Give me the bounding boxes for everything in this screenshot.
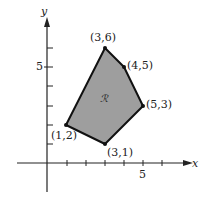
region-label: ℛ [100, 94, 108, 104]
vertex-label-4-5: (4,5) [127, 60, 153, 71]
diagram: y x 5 5 ℛ (3,6) (4,5) (5,3) (3,1) (1,2) [0, 0, 208, 199]
vertex-label-3-6: (3,6) [90, 32, 116, 43]
vertex-label-5-3: (5,3) [146, 99, 172, 110]
vertex-label-3-1: (3,1) [107, 147, 133, 158]
y-axis-arrow-icon [44, 17, 50, 27]
vertex-label-1-2: (1,2) [51, 130, 77, 141]
y-tick-5: 5 [36, 61, 43, 72]
x-tick-5: 5 [139, 169, 146, 180]
y-axis-label: y [41, 6, 47, 17]
x-axis-label: x [192, 158, 198, 169]
